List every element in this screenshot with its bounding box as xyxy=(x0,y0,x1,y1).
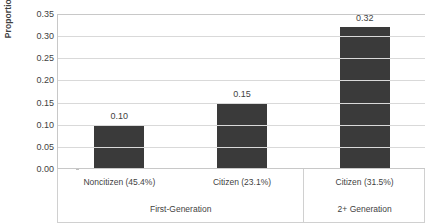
bar-value-label: 0.15 xyxy=(195,88,289,100)
bar-group: 0.10 xyxy=(94,14,144,169)
category-label: Noncitizen (45.4%) xyxy=(58,169,181,196)
y-axis-title: Proportion xyxy=(0,0,16,128)
gridline xyxy=(58,125,425,126)
y-axis-tick-label: 0.30 xyxy=(22,30,54,42)
plot-area: 0.100.150.32 xyxy=(57,14,425,169)
bar-chart: Proportion 0.350.300.250.200.150.100.050… xyxy=(0,0,434,224)
bar-value-label: 0.32 xyxy=(318,12,412,24)
group-label: First-Generation xyxy=(58,196,303,223)
bar-value-label: 0.10 xyxy=(72,110,166,122)
y-axis-tick-label: 0.25 xyxy=(22,52,54,64)
bar-group: 0.32 xyxy=(340,14,390,169)
gridline xyxy=(58,36,425,37)
bars-layer: 0.100.150.32 xyxy=(58,14,425,169)
y-axis-tick-label: 0.15 xyxy=(22,97,54,109)
y-axis-tick-labels: 0.350.300.250.200.150.100.050.00 xyxy=(22,14,54,169)
gridline xyxy=(58,80,425,81)
y-axis-tick-label: 0.35 xyxy=(22,8,54,20)
y-axis-tick-label: 0.05 xyxy=(22,141,54,153)
gridline xyxy=(58,103,425,104)
category-row: Noncitizen (45.4%)Citizen (23.1%)Citizen… xyxy=(58,169,424,196)
group-divider xyxy=(303,169,304,223)
y-axis-tick-label: 0.10 xyxy=(22,119,54,131)
category-label-table: Noncitizen (45.4%)Citizen (23.1%)Citizen… xyxy=(57,169,425,223)
gridline xyxy=(58,147,425,148)
group-row: First-Generation2+ Generation xyxy=(58,196,424,223)
y-axis-tick-label: 0.00 xyxy=(22,163,54,175)
bar-group: 0.15 xyxy=(217,14,267,169)
category-label: Citizen (23.1%) xyxy=(181,169,304,196)
category-label: Citizen (31.5%) xyxy=(303,169,426,196)
bar xyxy=(217,103,267,169)
group-label: 2+ Generation xyxy=(303,196,426,223)
y-axis-tick-label: 0.20 xyxy=(22,74,54,86)
gridline xyxy=(58,58,425,59)
